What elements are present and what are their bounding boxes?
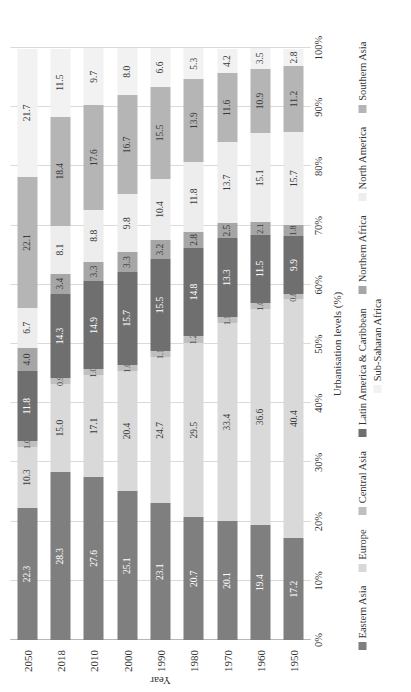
stacked-bar[interactable]: 22.310.31.011.84.06.722.121.7 bbox=[17, 48, 37, 640]
bar-segment[interactable]: 29.5 bbox=[183, 343, 203, 518]
stacked-bar[interactable]: 28.315.00.914.33.48.118.411.5 bbox=[50, 48, 70, 640]
bar-row: 17.240.40.89.91.815.711.22.8 bbox=[277, 48, 310, 640]
bar-segment[interactable]: 6.6 bbox=[150, 48, 170, 87]
value-axis-tick-label: 30% bbox=[312, 453, 323, 472]
bar-segment[interactable]: 5.3 bbox=[183, 48, 203, 79]
bar-segment[interactable]: 15.1 bbox=[250, 133, 270, 222]
legend-swatch-icon bbox=[358, 193, 366, 201]
legend-item[interactable]: North America bbox=[356, 127, 367, 202]
bar-segment-value: 3.3 bbox=[122, 256, 132, 268]
bar-segment[interactable]: 2.1 bbox=[250, 222, 270, 234]
bar-segment[interactable]: 18.4 bbox=[50, 117, 70, 226]
bar-segment[interactable]: 1.0 bbox=[17, 441, 37, 447]
bar-segment[interactable]: 9.9 bbox=[283, 236, 303, 295]
bar-segment[interactable]: 10.3 bbox=[17, 447, 37, 508]
bar-segment[interactable]: 19.4 bbox=[250, 525, 270, 640]
bar-segment[interactable]: 15.0 bbox=[50, 384, 70, 473]
bar-segment[interactable]: 17.1 bbox=[83, 375, 103, 476]
legend-item[interactable]: Southern Asia bbox=[356, 42, 367, 113]
bar-row: 28.315.00.914.33.48.118.411.5 bbox=[43, 48, 76, 640]
bar-segment[interactable]: 14.9 bbox=[83, 281, 103, 369]
bar-segment[interactable]: 17.6 bbox=[83, 105, 103, 209]
bar-segment[interactable]: 28.3 bbox=[50, 472, 70, 640]
legend-item[interactable]: Sub-Saharan Africa bbox=[371, 299, 382, 394]
bar-segment-value: 2.8 bbox=[189, 234, 199, 246]
bar-segment[interactable]: 21.7 bbox=[17, 49, 37, 177]
bar-segment[interactable]: 1.0 bbox=[117, 365, 137, 371]
bar-segment[interactable]: 1.1 bbox=[217, 317, 237, 324]
bar-segment[interactable]: 3.2 bbox=[150, 240, 170, 259]
bar-segment[interactable]: 22.1 bbox=[17, 177, 37, 308]
legend-item[interactable]: Latin America & Caribbean bbox=[356, 308, 367, 437]
bar-segment[interactable]: 16.7 bbox=[117, 95, 137, 194]
bar-segment[interactable]: 9.7 bbox=[83, 48, 103, 105]
bar-segment[interactable]: 11.6 bbox=[217, 74, 237, 143]
bar-segment[interactable]: 40.4 bbox=[283, 299, 303, 538]
bar-segment[interactable]: 36.6 bbox=[250, 309, 270, 525]
bar-segment[interactable]: 11.5 bbox=[50, 49, 70, 117]
legend-item[interactable]: Eastern Asia bbox=[356, 586, 367, 651]
stacked-bar[interactable]: 17.240.40.89.91.815.711.22.8 bbox=[283, 48, 303, 640]
bar-segment[interactable]: 3.3 bbox=[117, 252, 137, 272]
bar-segment[interactable]: 15.5 bbox=[150, 259, 170, 351]
bar-segment[interactable]: 1.8 bbox=[283, 225, 303, 236]
bar-segment[interactable]: 9.8 bbox=[117, 194, 137, 252]
bar-segment[interactable]: 27.6 bbox=[83, 477, 103, 640]
rotated-figure-wrapper: Year 20502018201020001990198019701960195… bbox=[0, 0, 411, 692]
bar-segment[interactable]: 1.1 bbox=[150, 351, 170, 358]
bar-segment[interactable]: 2.8 bbox=[283, 49, 303, 66]
legend-item[interactable]: Central Asia bbox=[356, 451, 367, 515]
stacked-bar[interactable]: 27.617.11.014.93.38.817.69.7 bbox=[83, 48, 103, 640]
stacked-bar[interactable]: 25.120.41.015.73.39.816.78.0 bbox=[117, 48, 137, 640]
bar-segment[interactable]: 15.7 bbox=[283, 132, 303, 225]
stacked-bar[interactable]: 20.729.51.214.82.811.813.95.3 bbox=[183, 48, 203, 640]
bar-segment[interactable]: 1.2 bbox=[183, 336, 203, 343]
bar-segment[interactable]: 11.8 bbox=[17, 371, 37, 441]
bar-segment[interactable]: 8.8 bbox=[83, 210, 103, 262]
bar-segment[interactable]: 23.1 bbox=[150, 503, 170, 640]
bar-segment[interactable]: 2.5 bbox=[217, 223, 237, 238]
bar-segment[interactable]: 0.9 bbox=[50, 378, 70, 383]
bar-segment[interactable]: 10.4 bbox=[150, 179, 170, 241]
bar-segment[interactable]: 8.1 bbox=[50, 226, 70, 274]
bar-segment-value: 15.5 bbox=[155, 125, 165, 142]
bar-segment[interactable]: 14.3 bbox=[50, 294, 70, 379]
bar-segment[interactable]: 3.3 bbox=[83, 262, 103, 282]
bar-segment[interactable]: 22.3 bbox=[17, 508, 37, 640]
value-axis-tick-label: 90% bbox=[312, 98, 323, 117]
bar-segment[interactable]: 20.1 bbox=[217, 521, 237, 640]
bar-segment[interactable]: 20.7 bbox=[183, 517, 203, 640]
bar-segment[interactable]: 14.8 bbox=[183, 248, 203, 336]
bar-segment[interactable]: 8.0 bbox=[117, 48, 137, 95]
stacked-bar[interactable]: 20.133.41.113.32.513.711.64.2 bbox=[217, 48, 237, 640]
category-label: 1950 bbox=[277, 644, 310, 692]
bar-segment[interactable]: 13.9 bbox=[183, 79, 203, 161]
bar-segment[interactable]: 1.0 bbox=[250, 303, 270, 309]
bar-segment[interactable]: 25.1 bbox=[117, 491, 137, 640]
bar-segment[interactable]: 11.2 bbox=[283, 66, 303, 132]
bar-segment[interactable]: 13.7 bbox=[217, 142, 237, 223]
bar-segment[interactable]: 17.2 bbox=[283, 538, 303, 640]
stacked-bar[interactable]: 19.436.61.011.52.115.110.93.5 bbox=[250, 48, 270, 640]
bar-segment[interactable]: 11.8 bbox=[183, 162, 203, 232]
bar-segment[interactable]: 3.4 bbox=[50, 274, 70, 294]
bar-segment[interactable]: 10.9 bbox=[250, 69, 270, 133]
bar-segment[interactable]: 15.5 bbox=[150, 87, 170, 179]
legend-item[interactable]: Europe bbox=[356, 529, 367, 571]
bar-segment[interactable]: 0.8 bbox=[283, 294, 303, 299]
bar-segment[interactable]: 13.3 bbox=[217, 238, 237, 317]
bar-segment[interactable]: 3.5 bbox=[250, 48, 270, 69]
bar-segment[interactable]: 20.4 bbox=[117, 371, 137, 492]
bar-segment[interactable]: 4.2 bbox=[217, 49, 237, 74]
bar-segment[interactable]: 2.8 bbox=[183, 232, 203, 249]
bar-segment[interactable]: 24.7 bbox=[150, 357, 170, 503]
bar-segment[interactable]: 11.5 bbox=[250, 235, 270, 303]
bar-segment[interactable]: 1.0 bbox=[83, 369, 103, 375]
bar-segment[interactable]: 33.4 bbox=[217, 323, 237, 521]
stacked-bar[interactable]: 23.124.71.115.53.210.415.56.6 bbox=[150, 48, 170, 640]
bar-segment[interactable]: 6.7 bbox=[17, 308, 37, 348]
bar-segment[interactable]: 15.7 bbox=[117, 272, 137, 365]
legend-item[interactable]: Northern Africa bbox=[356, 215, 367, 294]
bar-segment[interactable]: 4.0 bbox=[17, 348, 37, 372]
bar-segment-value: 9.9 bbox=[289, 259, 299, 271]
